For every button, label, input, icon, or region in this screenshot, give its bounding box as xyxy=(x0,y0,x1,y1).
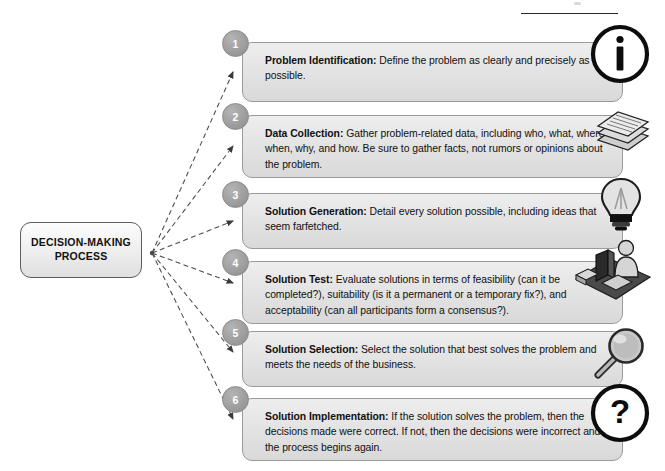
header-rule xyxy=(521,13,618,14)
step-1-heading: Problem Identification: xyxy=(265,55,376,66)
step-2-text: Data Collection: Gather problem-related … xyxy=(265,126,608,172)
step-2-number-badge: 2 xyxy=(222,103,249,130)
step-1-number-badge: 1 xyxy=(222,30,249,57)
step-4-number: 4 xyxy=(233,257,239,269)
step-6-heading: Solution Implementation: xyxy=(265,411,388,422)
scan-artifact xyxy=(574,2,581,5)
step-3-number: 3 xyxy=(233,189,239,201)
magnifying-glass-icon xyxy=(589,322,651,388)
step-1-text: Problem Identification: Define the probl… xyxy=(265,53,608,84)
step-4-number-badge: 4 xyxy=(222,249,249,276)
step-3-heading: Solution Generation: xyxy=(265,206,367,217)
step-1-card[interactable]: Problem Identification: Define the probl… xyxy=(242,42,623,102)
step-4-card[interactable]: Solution Test: Evaluate solutions in ter… xyxy=(242,261,623,324)
step-3-number-badge: 3 xyxy=(222,181,249,208)
step-4-heading: Solution Test: xyxy=(265,274,333,285)
root-label-line-2: PROCESS xyxy=(55,250,108,262)
step-2-heading: Data Collection: xyxy=(265,128,343,139)
root-node-decision-making-process[interactable]: DECISION-MAKING PROCESS xyxy=(20,222,142,278)
step-5-heading: Solution Selection: xyxy=(265,344,358,355)
step-3-text: Solution Generation: Detail every soluti… xyxy=(265,204,608,235)
step-6-number-badge: 6 xyxy=(222,386,249,413)
root-label-line-1: DECISION-MAKING xyxy=(31,236,131,248)
root-node-label: DECISION-MAKING PROCESS xyxy=(31,236,131,264)
step-5-number-badge: 5 xyxy=(222,319,249,346)
step-4-text: Solution Test: Evaluate solutions in ter… xyxy=(265,272,608,318)
step-5-text: Solution Selection: Select the solution … xyxy=(265,342,608,373)
document-stack-icon xyxy=(592,100,658,164)
step-5-number: 5 xyxy=(233,327,239,339)
step-6-number: 6 xyxy=(233,394,239,406)
step-1-number: 1 xyxy=(233,38,239,50)
step-5-card[interactable]: Solution Selection: Select the solution … xyxy=(242,331,623,387)
step-2-card[interactable]: Data Collection: Gather problem-related … xyxy=(242,115,623,178)
info-circle-icon xyxy=(589,23,651,89)
step-6-text: Solution Implementation: If the solution… xyxy=(265,409,608,455)
question-circle-icon: ? xyxy=(589,382,651,448)
step-6-card[interactable]: Solution Implementation: If the solution… xyxy=(242,398,623,461)
step-2-number: 2 xyxy=(233,111,239,123)
diagram-canvas: DECISION-MAKING PROCESS Problem Identifi… xyxy=(0,0,665,471)
svg-text:?: ? xyxy=(610,393,630,430)
person-at-computer-icon xyxy=(570,237,656,313)
lightbulb-icon xyxy=(595,175,647,239)
step-3-card[interactable]: Solution Generation: Detail every soluti… xyxy=(242,193,623,249)
